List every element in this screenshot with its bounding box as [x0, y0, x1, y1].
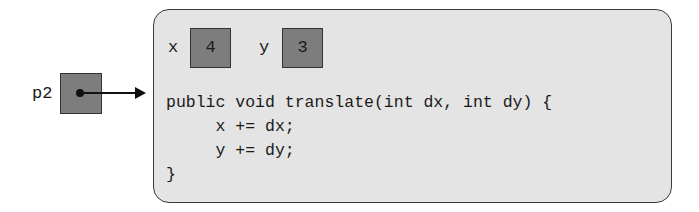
field-cell-x: 4 [190, 28, 231, 68]
pointer-arrow-head-icon [135, 87, 146, 99]
code-line: y += dy; [166, 139, 552, 163]
field-label-x: x [168, 38, 178, 58]
code-line: x += dx; [166, 115, 552, 139]
code-line: } [166, 163, 552, 187]
pointer-arrow-shaft [80, 92, 136, 94]
field-cell-y: 3 [282, 28, 323, 68]
field-value-y: 3 [283, 29, 322, 66]
field-value-x: 4 [191, 29, 230, 66]
method-code: public void translate(int dx, int dy) { … [166, 91, 552, 187]
code-line: public void translate(int dx, int dy) { [166, 91, 552, 115]
reference-label-p2: p2 [32, 84, 52, 104]
field-label-y: y [259, 38, 269, 58]
